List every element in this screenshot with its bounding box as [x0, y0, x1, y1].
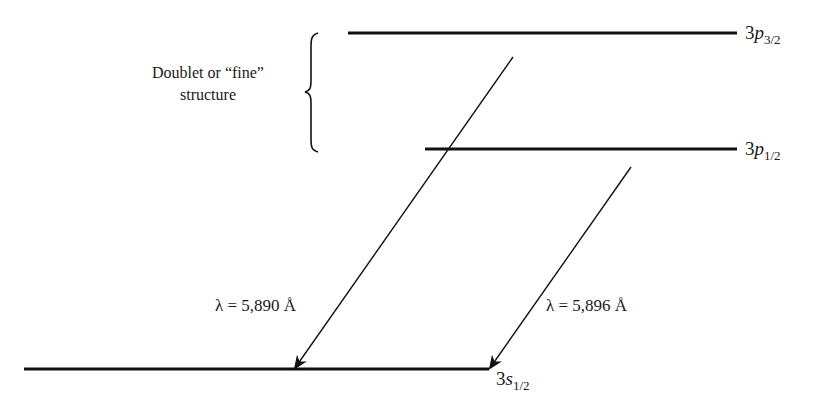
level-prefix: 3 [745, 138, 755, 159]
level-prefix: 3 [745, 22, 755, 43]
level-orbital: p [755, 138, 765, 159]
fine-structure-annotation: Doublet or “fine” structure [133, 62, 283, 106]
level-label-3s-1-2: 3s1/2 [496, 369, 530, 392]
level-orbital: s [506, 368, 513, 389]
level-prefix: 3 [496, 368, 506, 389]
transition-5896-arrow [490, 167, 631, 368]
level-subscript: 1/2 [764, 148, 781, 163]
annotation-line-2: structure [133, 84, 283, 106]
wavelength-label-5890: λ = 5,890 Å [215, 297, 296, 314]
annotation-line-1: Doublet or “fine” [133, 62, 283, 84]
level-orbital: p [755, 22, 765, 43]
level-label-3p-3-2: 3p3/2 [745, 23, 781, 46]
level-subscript: 3/2 [764, 32, 781, 47]
level-subscript: 1/2 [513, 378, 530, 393]
wavelength-label-5896: λ = 5,896 Å [546, 297, 627, 314]
energy-level-diagram [0, 0, 814, 405]
level-label-3p-1-2: 3p1/2 [745, 139, 781, 162]
transition-5890-arrow [295, 57, 513, 368]
curly-brace-icon [305, 33, 318, 152]
